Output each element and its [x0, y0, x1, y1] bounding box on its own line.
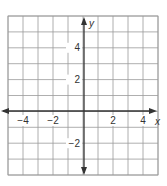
coordinate-plane: −4−224 42−2 x y	[0, 0, 167, 186]
y-axis-down-arrow-icon	[81, 167, 87, 175]
y-tick-label: 2	[74, 74, 80, 85]
y-tick-label: −2	[69, 138, 81, 149]
grid-lines	[8, 16, 158, 175]
x-axis-left-arrow-icon	[1, 108, 9, 114]
x-tick-label: −2	[47, 115, 59, 126]
y-axis	[81, 17, 87, 175]
y-axis-up-arrow-icon	[81, 17, 87, 25]
x-tick-label: −4	[17, 115, 29, 126]
x-tick-label: 2	[110, 115, 116, 126]
x-tick-label: 4	[140, 115, 146, 126]
x-axis	[1, 108, 157, 114]
x-axis-right-arrow-icon	[149, 108, 157, 114]
x-axis-label: x	[154, 116, 161, 127]
y-tick-label: 4	[74, 42, 80, 53]
y-axis-label: y	[88, 18, 95, 29]
